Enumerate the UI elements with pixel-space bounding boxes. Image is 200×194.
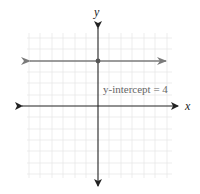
y-intercept-point	[96, 59, 101, 64]
x-axis-label: x	[184, 99, 191, 113]
coordinate-plane: y x y-intercept = 4	[0, 0, 200, 194]
y-intercept-annotation: y-intercept = 4	[103, 83, 168, 95]
y-axis-label: y	[93, 5, 100, 19]
